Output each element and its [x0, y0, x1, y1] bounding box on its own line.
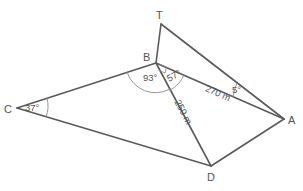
angle-label-C: 37°: [25, 102, 40, 113]
vertex-label-A: A: [288, 114, 296, 126]
length-label-BD: 250 m: [172, 98, 194, 127]
vertex-label-B: B: [143, 51, 150, 63]
edge-TB: [156, 24, 161, 63]
angle-label-CBD: 93°: [143, 72, 158, 83]
length-label-BA: 270 m: [204, 82, 233, 103]
vertex-label-D: D: [207, 171, 215, 183]
vertex-label-C: C: [4, 103, 12, 115]
angle-label-TAB: 5°: [232, 84, 241, 95]
edge-DA: [211, 119, 284, 166]
angle-arc-C: [46, 98, 48, 117]
vertex-label-T: T: [156, 9, 163, 21]
geometry-diagram: T B C A D 37° 93° 57° 5° 270 m 250 m: [0, 0, 303, 191]
